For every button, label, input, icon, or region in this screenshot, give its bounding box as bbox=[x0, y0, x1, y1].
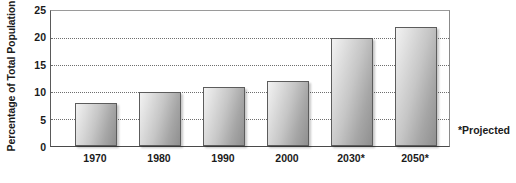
bar-1990 bbox=[203, 87, 245, 146]
x-tick-label-2000: 2000 bbox=[275, 152, 298, 164]
plot-area bbox=[50, 10, 450, 147]
y-axis-title: Percentage of Total Population bbox=[0, 0, 22, 152]
y-axis-tick-labels: 25 20 15 10 5 0 bbox=[22, 0, 50, 152]
bar-2000 bbox=[267, 81, 309, 146]
x-tick-label-1970: 1970 bbox=[83, 152, 106, 164]
bar-1980 bbox=[139, 92, 181, 146]
y-tick-label-25: 25 bbox=[34, 5, 46, 16]
y-tick-label-0: 0 bbox=[40, 142, 46, 153]
y-tick-label-5: 5 bbox=[40, 114, 46, 125]
x-tick-label-1980: 1980 bbox=[147, 152, 170, 164]
y-tick-label-10: 10 bbox=[34, 87, 46, 98]
y-tick-label-20: 20 bbox=[34, 32, 46, 43]
x-tick-label-2050: 2050* bbox=[401, 152, 428, 164]
bar-chart-figure: Percentage of Total Population 25 20 15 … bbox=[0, 0, 516, 183]
x-tick-label-2030: 2030* bbox=[337, 152, 364, 164]
y-axis-title-label: Percentage of Total Population bbox=[5, 1, 17, 152]
bar-2030 bbox=[331, 38, 373, 146]
projected-footnote: *Projected bbox=[458, 124, 510, 136]
bar-2050 bbox=[395, 27, 437, 146]
bars-layer bbox=[51, 11, 449, 146]
x-axis-tick-labels: 1970 1980 1990 2000 2030* 2050* bbox=[50, 152, 450, 172]
bar-1970 bbox=[75, 103, 117, 146]
x-tick-label-1990: 1990 bbox=[211, 152, 234, 164]
y-tick-label-15: 15 bbox=[34, 60, 46, 71]
